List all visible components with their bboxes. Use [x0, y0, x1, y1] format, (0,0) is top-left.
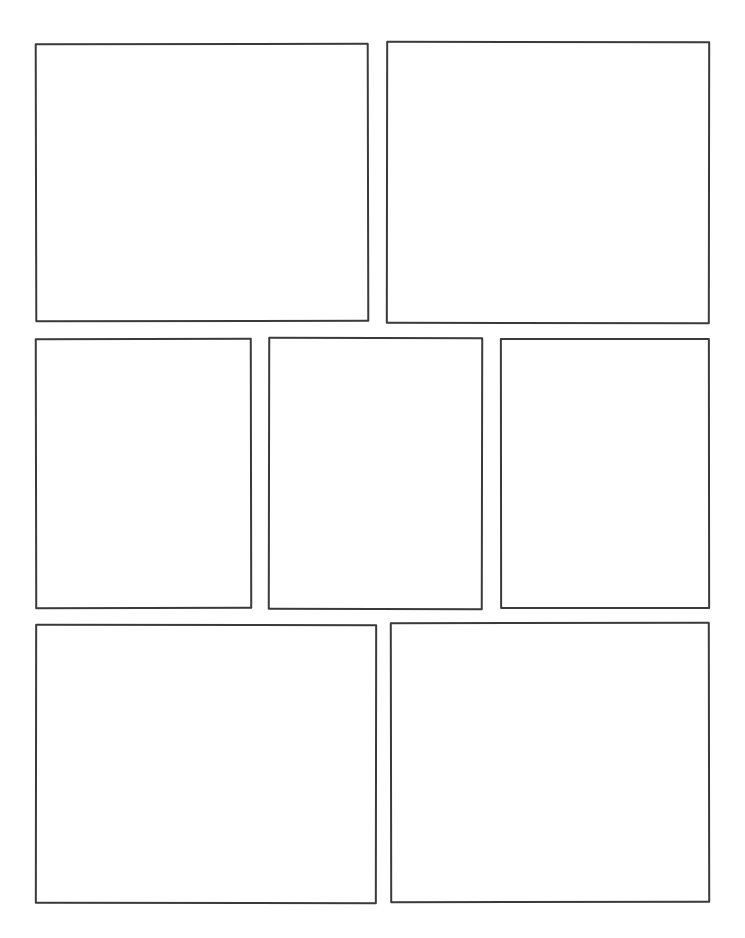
panel-1-interior[interactable]	[37, 45, 368, 321]
comic-panel-1[interactable]	[35, 43, 370, 323]
panel-2-interior[interactable]	[388, 43, 708, 322]
panel-6-interior[interactable]	[37, 626, 375, 902]
comic-panel-5[interactable]	[500, 338, 710, 609]
panel-3-interior[interactable]	[37, 340, 250, 607]
comic-panel-2[interactable]	[386, 41, 710, 324]
comic-panel-7[interactable]	[390, 622, 710, 904]
comic-panel-4[interactable]	[268, 337, 483, 610]
comic-panel-6[interactable]	[35, 624, 377, 904]
comic-page	[0, 0, 745, 938]
panel-7-interior[interactable]	[392, 624, 708, 901]
panel-5-interior[interactable]	[502, 340, 708, 607]
panel-4-interior[interactable]	[270, 339, 481, 608]
comic-panel-3[interactable]	[35, 338, 252, 609]
